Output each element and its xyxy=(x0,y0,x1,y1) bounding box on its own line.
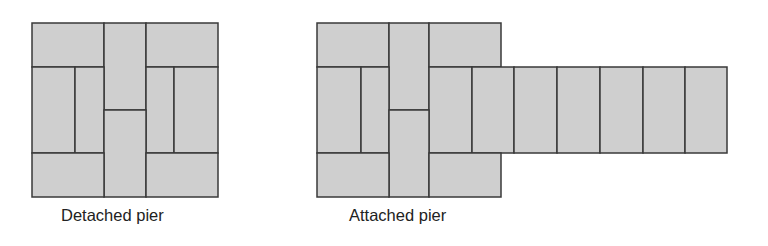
attached-pier-bricks xyxy=(317,23,727,197)
detached-pier-bricks xyxy=(32,23,218,197)
brick xyxy=(685,67,727,153)
brick xyxy=(472,67,514,153)
brick xyxy=(146,67,174,153)
brick xyxy=(600,67,643,153)
detached-pier-caption: Detached pier xyxy=(61,206,164,225)
brick xyxy=(389,110,429,197)
brick xyxy=(146,23,218,67)
brick xyxy=(174,67,218,153)
brick xyxy=(104,110,146,197)
brick xyxy=(32,153,104,197)
brick xyxy=(317,67,361,153)
brick xyxy=(429,23,501,67)
brick xyxy=(643,67,685,153)
brick xyxy=(429,67,472,153)
attached-pier-caption: Attached pier xyxy=(349,206,446,225)
brick xyxy=(32,67,75,153)
brick xyxy=(514,67,557,153)
brick xyxy=(429,153,501,197)
brick xyxy=(361,67,389,153)
brick xyxy=(32,23,104,67)
brick xyxy=(104,23,146,110)
brick xyxy=(557,67,600,153)
brick xyxy=(389,23,429,110)
brick xyxy=(75,67,104,153)
brick xyxy=(317,153,389,197)
brick xyxy=(317,23,389,67)
brick xyxy=(146,153,218,197)
